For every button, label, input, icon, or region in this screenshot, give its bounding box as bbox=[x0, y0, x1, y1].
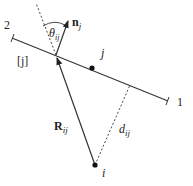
label-angle-theta-ij: θij bbox=[49, 26, 60, 42]
label-segment-j: [j] bbox=[17, 54, 28, 68]
end-tick-2 bbox=[11, 34, 14, 42]
label-end-1: 1 bbox=[177, 95, 183, 109]
end-tick-1 bbox=[166, 97, 169, 105]
point-j bbox=[89, 65, 94, 70]
vector-R-ij bbox=[57, 58, 95, 165]
label-end-2: 2 bbox=[4, 18, 10, 32]
label-vector-R-ij: Rij bbox=[54, 119, 68, 135]
point-i bbox=[92, 162, 97, 167]
label-normal-n-j: nj bbox=[72, 15, 82, 31]
label-point-i: i bbox=[102, 166, 105, 180]
geometry-diagram: 2 1 [j] j i nj θij Rij dij bbox=[0, 0, 193, 186]
label-distance-d-ij: dij bbox=[119, 122, 131, 138]
label-point-j: j bbox=[99, 46, 105, 60]
